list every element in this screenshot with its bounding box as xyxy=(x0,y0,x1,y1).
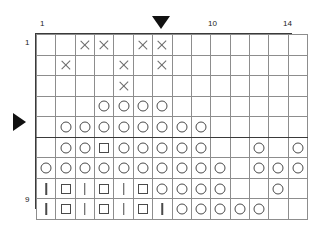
chart-cell[interactable] xyxy=(95,76,114,97)
chart-cell[interactable] xyxy=(37,55,56,76)
chart-cell[interactable] xyxy=(37,35,56,56)
chart-cell[interactable] xyxy=(230,35,249,56)
chart-cell[interactable] xyxy=(230,158,249,179)
chart-cell[interactable] xyxy=(211,158,230,179)
chart-cell[interactable] xyxy=(75,96,94,117)
chart-cell[interactable] xyxy=(56,96,75,117)
chart-cell[interactable] xyxy=(249,199,268,220)
chart-cell[interactable] xyxy=(288,117,307,138)
chart-cell[interactable] xyxy=(288,96,307,117)
chart-cell[interactable] xyxy=(211,137,230,158)
chart-cell[interactable] xyxy=(269,178,288,199)
chart-cell[interactable] xyxy=(191,137,210,158)
chart-cell[interactable] xyxy=(172,158,191,179)
chart-cell[interactable] xyxy=(172,137,191,158)
chart-cell[interactable] xyxy=(249,76,268,97)
chart-cell[interactable] xyxy=(288,158,307,179)
chart-cell[interactable] xyxy=(114,76,133,97)
chart-cell[interactable] xyxy=(153,76,172,97)
chart-cell[interactable] xyxy=(288,76,307,97)
chart-cell[interactable] xyxy=(249,96,268,117)
chart-cell[interactable] xyxy=(211,117,230,138)
chart-cell[interactable] xyxy=(191,76,210,97)
chart-cell[interactable] xyxy=(95,96,114,117)
chart-cell[interactable] xyxy=(95,117,114,138)
chart-cell[interactable] xyxy=(288,137,307,158)
chart-cell[interactable] xyxy=(75,178,94,199)
chart-cell[interactable] xyxy=(230,117,249,138)
chart-cell[interactable] xyxy=(249,35,268,56)
chart-cell[interactable] xyxy=(56,35,75,56)
chart-cell[interactable] xyxy=(191,178,210,199)
chart-cell[interactable] xyxy=(269,117,288,138)
chart-cell[interactable] xyxy=(75,137,94,158)
chart-cell[interactable] xyxy=(172,35,191,56)
chart-cell[interactable] xyxy=(191,117,210,138)
chart-cell[interactable] xyxy=(230,96,249,117)
chart-cell[interactable] xyxy=(37,76,56,97)
chart-cell[interactable] xyxy=(230,178,249,199)
chart-cell[interactable] xyxy=(133,76,152,97)
chart-cell[interactable] xyxy=(114,199,133,220)
chart-cell[interactable] xyxy=(153,55,172,76)
chart-cell[interactable] xyxy=(153,158,172,179)
chart-cell[interactable] xyxy=(114,137,133,158)
chart-cell[interactable] xyxy=(172,199,191,220)
chart-cell[interactable] xyxy=(230,137,249,158)
chart-cell[interactable] xyxy=(95,199,114,220)
chart-cell[interactable] xyxy=(269,199,288,220)
chart-cell[interactable] xyxy=(133,178,152,199)
chart-cell[interactable] xyxy=(172,96,191,117)
chart-cell[interactable] xyxy=(114,35,133,56)
chart-cell[interactable] xyxy=(269,55,288,76)
chart-cell[interactable] xyxy=(75,158,94,179)
chart-cell[interactable] xyxy=(56,137,75,158)
chart-cell[interactable] xyxy=(172,76,191,97)
chart-cell[interactable] xyxy=(133,199,152,220)
chart-cell[interactable] xyxy=(95,55,114,76)
chart-cell[interactable] xyxy=(56,76,75,97)
chart-cell[interactable] xyxy=(211,96,230,117)
chart-cell[interactable] xyxy=(269,158,288,179)
chart-cell[interactable] xyxy=(153,178,172,199)
chart-cell[interactable] xyxy=(191,35,210,56)
chart-cell[interactable] xyxy=(172,178,191,199)
chart-cell[interactable] xyxy=(288,55,307,76)
chart-cell[interactable] xyxy=(56,158,75,179)
chart-cell[interactable] xyxy=(133,96,152,117)
chart-cell[interactable] xyxy=(211,76,230,97)
chart-cell[interactable] xyxy=(56,199,75,220)
chart-cell[interactable] xyxy=(191,55,210,76)
chart-cell[interactable] xyxy=(191,96,210,117)
chart-cell[interactable] xyxy=(75,55,94,76)
chart-cell[interactable] xyxy=(133,137,152,158)
chart-cell[interactable] xyxy=(153,137,172,158)
chart-cell[interactable] xyxy=(249,178,268,199)
chart-cell[interactable] xyxy=(133,117,152,138)
chart-cell[interactable] xyxy=(75,117,94,138)
chart-cell[interactable] xyxy=(114,96,133,117)
chart-cell[interactable] xyxy=(269,137,288,158)
chart-cell[interactable] xyxy=(114,117,133,138)
chart-cell[interactable] xyxy=(191,158,210,179)
chart-cell[interactable] xyxy=(153,117,172,138)
chart-cell[interactable] xyxy=(269,96,288,117)
chart-cell[interactable] xyxy=(288,199,307,220)
chart-cell[interactable] xyxy=(56,55,75,76)
chart-cell[interactable] xyxy=(133,35,152,56)
chart-cell[interactable] xyxy=(37,158,56,179)
chart-cell[interactable] xyxy=(56,117,75,138)
chart-cell[interactable] xyxy=(95,35,114,56)
chart-cell[interactable] xyxy=(133,158,152,179)
chart-cell[interactable] xyxy=(75,76,94,97)
chart-cell[interactable] xyxy=(269,76,288,97)
chart-cell[interactable] xyxy=(95,158,114,179)
chart-cell[interactable] xyxy=(230,199,249,220)
chart-cell[interactable] xyxy=(37,137,56,158)
chart-cell[interactable] xyxy=(37,96,56,117)
chart-cell[interactable] xyxy=(153,35,172,56)
chart-cell[interactable] xyxy=(172,117,191,138)
chart-cell[interactable] xyxy=(172,55,191,76)
chart-cell[interactable] xyxy=(37,178,56,199)
chart-cell[interactable] xyxy=(75,35,94,56)
